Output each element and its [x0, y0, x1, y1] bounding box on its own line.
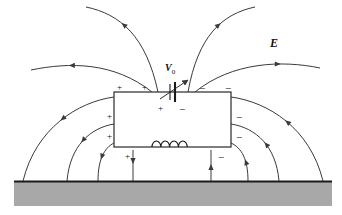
charge-sign-positive: +: [117, 83, 122, 92]
charge-sign-negative: −: [225, 83, 231, 94]
field-line-top-right-far: [188, 7, 255, 92]
field-line-left-3-arrowhead: [98, 153, 105, 160]
box-outline: [114, 92, 231, 147]
charge-sign-negative: −: [236, 132, 242, 143]
field-label-E: E: [270, 37, 278, 49]
charge-sign-negative: −: [218, 152, 224, 163]
field-line-top-left-near-arrowhead: [69, 63, 75, 68]
charge-sign-positive: +: [107, 112, 112, 121]
field-line-top-right-near-arrowhead: [275, 61, 281, 66]
field-line-top-left-near: [31, 65, 152, 92]
charge-sign-negative: −: [236, 112, 242, 123]
source-label-v0: V0: [165, 63, 175, 76]
charge-sign-positive: +: [107, 132, 112, 141]
charge-sign-negative: −: [199, 83, 205, 94]
field-line-right-4-arrowhead: [208, 164, 213, 170]
ground-plane: [14, 182, 332, 207]
charge-sign-positive: +: [158, 104, 163, 113]
field-line-top-left-far: [86, 7, 158, 92]
field-line-left-3: [98, 143, 114, 181]
conducting-body: [114, 92, 231, 147]
field-line-top-right-near: [195, 64, 320, 92]
field-line-right-3-arrowhead: [242, 158, 249, 165]
source-label-v0-letter: V: [165, 62, 172, 73]
charge-sign-positive: +: [125, 152, 130, 161]
figure-canvas: E V0 ++−−+++−−−+−: [0, 0, 342, 215]
charge-sign-negative: −: [179, 104, 185, 115]
charge-sign-positive: +: [142, 83, 147, 92]
source-label-v0-subscript: 0: [172, 68, 176, 76]
field-line-left-4-arrowhead: [130, 158, 135, 164]
ground-fill: [14, 182, 332, 206]
diagram-svg: [0, 0, 342, 215]
